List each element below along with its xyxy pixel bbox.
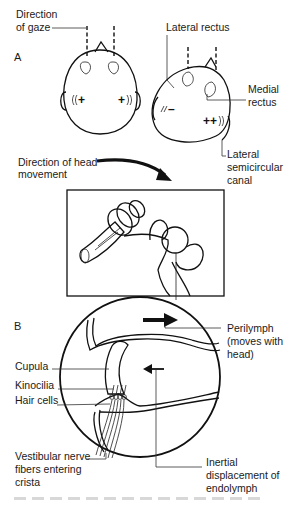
sign-plus-left: + (78, 93, 85, 107)
svg-text:movement: movement (18, 168, 67, 180)
kinocilia-label: Kinocilia (15, 379, 54, 391)
perilymph-leader (165, 325, 221, 328)
lateral-canal-leader (222, 140, 226, 156)
lateral-semicircular-canal-label: Lateral semicircular canal (227, 148, 284, 186)
gaze-lines-left (87, 26, 114, 57)
lateral-rectus-leader (167, 35, 174, 88)
nose-right (205, 58, 216, 67)
canal-signal-right-right (219, 116, 224, 126)
endolymph-arrow-icon (143, 364, 152, 374)
sign-minus: – (168, 102, 175, 116)
perilymph-label: Perilymph (moves with head) (227, 322, 283, 360)
canal-signal-right-left (161, 106, 167, 112)
svg-text:rectus: rectus (248, 96, 277, 108)
direction-of-gaze-label: Direction of gaze (16, 8, 58, 33)
svg-text:Direction of head: Direction of head (18, 156, 98, 168)
svg-text:Perilymph: Perilymph (227, 322, 274, 334)
eye-left-left (80, 62, 90, 74)
inner-ear-illustration (67, 190, 224, 300)
svg-text:Lateral: Lateral (227, 148, 259, 160)
head-right: Lateral rectus Medial rectus – ++ Latera… (152, 21, 283, 186)
nerve-cut-end (81, 249, 89, 263)
magnified-circle (60, 297, 220, 457)
lateral-canal (176, 244, 203, 270)
eye-right-right (205, 82, 216, 97)
svg-text:of gaze: of gaze (16, 21, 51, 33)
hair-cells-label: Hair cells (15, 394, 58, 406)
canal-signal-left-left (73, 95, 78, 105)
svg-text:fibers entering: fibers entering (15, 463, 82, 475)
sign-plus-right: + (118, 93, 125, 107)
medial-rectus-label: Medial (248, 83, 279, 95)
cupula (105, 341, 128, 394)
superior-canal-loop (172, 262, 190, 296)
eye-right-left (182, 72, 193, 86)
svg-text:semicircular: semicircular (227, 161, 284, 173)
svg-text:(moves with: (moves with (227, 335, 283, 347)
perilymph-arrow-icon (164, 313, 178, 327)
vestibular-diagram: A Direction of gaze + + Lateral rectus M… (0, 0, 294, 505)
svg-text:crista: crista (15, 476, 40, 488)
svg-text:Inertial: Inertial (206, 456, 238, 468)
ampulla-magnified (60, 297, 220, 458)
inertial-displacement-label: Inertial displacement of endolymph (206, 456, 280, 494)
svg-text:head): head) (227, 348, 254, 360)
head-movement-arrow-shaft (97, 160, 165, 175)
crista-lower-left (94, 410, 108, 452)
svg-text:Direction: Direction (16, 8, 58, 20)
head-outline-left (64, 50, 137, 134)
svg-text:canal: canal (227, 174, 252, 186)
panel-label-a: A (14, 51, 22, 63)
direction-of-head-movement-label: Direction of head movement (18, 156, 98, 180)
svg-text:endolymph: endolymph (206, 482, 258, 494)
eye-left-right (108, 62, 118, 74)
cupula-label: Cupula (15, 360, 48, 372)
panel-label-b: B (14, 320, 21, 332)
sign-plus-plus: ++ (203, 114, 217, 128)
vestibular-nerve-label: Vestibular nerve fibers entering crista (15, 450, 90, 488)
svg-text:Vestibular nerve: Vestibular nerve (15, 450, 90, 462)
svg-text:displacement of: displacement of (206, 469, 280, 481)
lateral-rectus-label: Lateral rectus (166, 21, 230, 33)
endolymph-leader (156, 370, 202, 467)
head-outline-right (152, 67, 230, 142)
canal-signal-left-right (127, 95, 132, 105)
figure-caption-cutoff (14, 497, 264, 500)
head-left: + + (61, 26, 141, 134)
ampulla-highlight-circle (162, 227, 188, 253)
